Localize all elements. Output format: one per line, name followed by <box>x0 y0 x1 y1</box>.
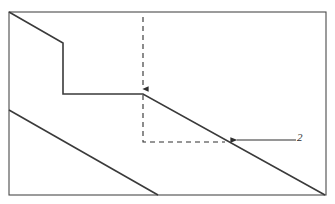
callout-label-2: 2 <box>297 132 303 143</box>
figure-root: 2 <box>0 0 335 204</box>
diagram-canvas <box>0 0 335 204</box>
